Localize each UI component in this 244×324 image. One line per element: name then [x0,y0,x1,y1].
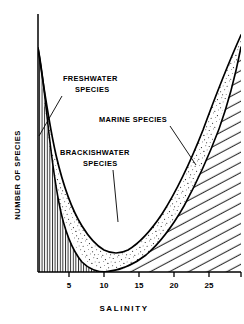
freshwater-species-label-line1: FRESHWATER [63,74,118,83]
marine-species-leader-line [170,126,196,165]
brackishwater-species-leader-line [113,170,118,222]
x-tick-label-10: 10 [100,281,109,290]
x-tick-label-20: 20 [170,281,179,290]
marine-species-annotation: MARINE SPECIES [99,115,196,165]
x-tick-label-25: 25 [205,281,214,290]
x-axis-tick-labels: 5 10 15 20 25 [67,281,214,290]
x-tick-label-5: 5 [67,281,72,290]
x-axis-title: SALINITY [99,304,148,313]
salinity-species-chart: 5 10 15 20 25 SALINITY NUMBER OF SPECIES… [0,0,244,324]
freshwater-species-label-line2: SPECIES [75,85,110,94]
y-axis-title: NUMBER OF SPECIES [13,130,22,220]
brackishwater-species-label-line2: SPECIES [83,159,118,168]
remane-diagram-figure: 5 10 15 20 25 SALINITY NUMBER OF SPECIES… [0,0,244,324]
marine-species-label: MARINE SPECIES [99,115,167,124]
brackishwater-species-label-line1: BRACKISHWATER [60,148,130,157]
x-tick-label-15: 15 [135,281,144,290]
